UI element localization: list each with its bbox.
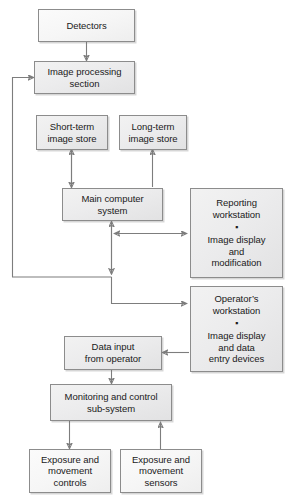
- flowchart-diagram: Detectors Image processing section Short…: [0, 0, 287, 499]
- reporting-workstation-title: Reporting workstation: [213, 197, 261, 220]
- edge-feedback-to-image-processing: [13, 78, 112, 278]
- node-detectors[interactable]: Detectors: [38, 9, 135, 42]
- reporting-workstation-body: Image display and modification: [208, 234, 266, 269]
- node-exposure-and-movement-sensors[interactable]: Exposure and movement sensors: [120, 449, 202, 493]
- node-data-input-from-operator[interactable]: Data input from operator: [64, 336, 162, 370]
- operator-workstation-body: Image display and data entry devices: [208, 330, 266, 365]
- operator-workstation-title: Operator’s workstation: [213, 293, 261, 316]
- node-long-term-image-store[interactable]: Long-term image store: [119, 115, 187, 150]
- edge-trunk-to-operator-workstation: [112, 277, 187, 304]
- node-main-computer-system[interactable]: Main computer system: [62, 188, 163, 221]
- bullet-separator-icon: ▪: [235, 319, 238, 328]
- node-exposure-and-movement-controls[interactable]: Exposure and movement controls: [29, 449, 111, 493]
- node-short-term-image-store[interactable]: Short-term image store: [36, 115, 108, 150]
- node-reporting-workstation[interactable]: Reporting workstation ▪ Image display an…: [190, 188, 283, 278]
- bullet-separator-icon: ▪: [235, 223, 238, 232]
- node-operator-workstation[interactable]: Operator’s workstation ▪ Image display a…: [190, 286, 283, 372]
- node-image-processing-section[interactable]: Image processing section: [34, 61, 135, 94]
- node-monitoring-and-control-sub-system[interactable]: Monitoring and control sub-system: [50, 384, 172, 421]
